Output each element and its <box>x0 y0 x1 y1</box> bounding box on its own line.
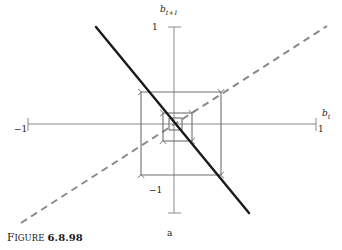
x-tick-label-max: 1 <box>318 124 324 134</box>
map-line <box>96 27 249 213</box>
panel-label: a <box>167 228 172 238</box>
cobweb-diagram <box>0 0 342 250</box>
caption-smallcaps: IGURE <box>14 233 44 243</box>
x-tick-label-min: −1 <box>14 124 27 134</box>
y-tick-label-max: 1 <box>152 22 158 32</box>
caption-number: 6.8.98 <box>48 232 83 243</box>
figure-caption: FIGURE 6.8.98 <box>7 231 83 243</box>
x-axis-label: bt <box>322 108 330 121</box>
y-axis-label: bt+1 <box>160 4 178 17</box>
figure-page: bt+1 bt 1 −1 −1 1 a FIGURE 6.8.98 <box>0 0 342 250</box>
y-tick-label-min: −1 <box>149 185 162 195</box>
